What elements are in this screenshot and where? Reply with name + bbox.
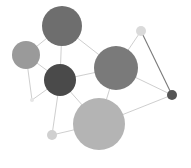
edge-top-right-small-right-small-dark <box>141 31 172 95</box>
node-top-right-small <box>136 26 146 36</box>
node-dark-center <box>44 64 76 96</box>
node-mid-right <box>94 46 138 90</box>
node-left <box>12 41 40 69</box>
network-graph-canvas <box>0 0 191 168</box>
node-bottom-left-small <box>47 130 57 140</box>
node-left-tiny <box>30 98 34 102</box>
node-right-small-dark <box>167 90 177 100</box>
network-diagram <box>0 0 191 168</box>
nodes-layer <box>12 6 177 150</box>
node-bottom-large <box>73 98 125 150</box>
node-top <box>42 6 82 46</box>
